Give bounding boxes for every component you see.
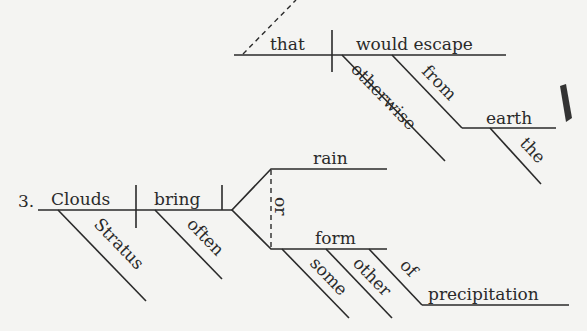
word-other: other — [349, 253, 396, 301]
item-number: 3. — [18, 191, 34, 211]
word-rain: rain — [313, 148, 348, 168]
word-form: form — [315, 228, 356, 248]
word-that: that — [270, 34, 305, 54]
edge-artifact — [560, 84, 572, 122]
word-some: some — [306, 253, 352, 299]
sentence-diagram: that would escape otherwise from earth t… — [0, 0, 587, 331]
word-from: from — [418, 61, 461, 104]
word-precipitation: precipitation — [428, 284, 539, 304]
word-often: often — [183, 214, 228, 260]
word-stratus: Stratus — [90, 214, 148, 273]
word-would-escape: would escape — [356, 34, 473, 54]
word-bring: bring — [154, 189, 200, 209]
word-otherwise: otherwise — [347, 59, 421, 134]
word-of: of — [396, 255, 423, 282]
word-earth: earth — [486, 108, 532, 128]
word-or: or — [271, 197, 291, 216]
compound-object-fork — [232, 169, 387, 249]
word-clouds: Clouds — [51, 189, 110, 209]
